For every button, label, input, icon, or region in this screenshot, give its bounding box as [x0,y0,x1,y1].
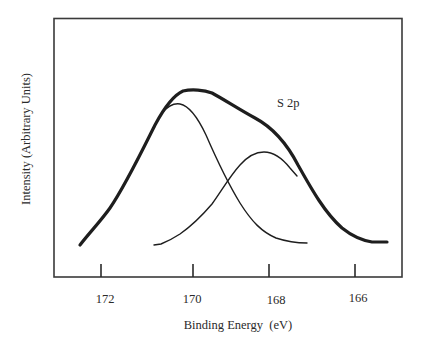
x-ticks [101,264,355,277]
series-component-1 [162,104,307,243]
series-component-2 [154,152,297,245]
x-tick-label: 166 [349,291,368,305]
xps-chart: 172 170 168 166 Binding Energy (eV) Inte… [0,0,421,350]
y-axis-label: Intensity (Arbitrary Units) [19,73,33,205]
series-envelope [80,90,387,245]
x-tick-label: 172 [96,292,115,306]
x-tick-label: 168 [267,293,286,307]
x-tick-labels: 172 170 168 166 [96,291,368,307]
peak-annotation: S 2p [277,96,300,110]
x-tick-label: 170 [183,292,202,306]
plot-frame [54,19,402,278]
x-axis-label: Binding Energy (eV) [184,318,292,332]
